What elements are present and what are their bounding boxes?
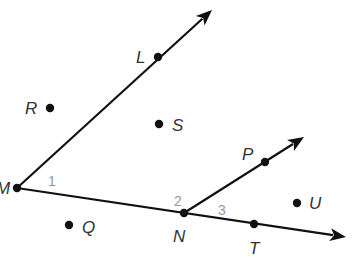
ray-line <box>17 19 202 188</box>
point-label: S <box>172 116 184 135</box>
ray-ML <box>17 10 212 188</box>
point-U: U <box>293 194 322 213</box>
point-T: T <box>249 220 261 258</box>
point-S: S <box>155 116 184 135</box>
angle-label-3: 3 <box>218 202 226 218</box>
angle-label-1: 1 <box>48 173 56 189</box>
point-label: T <box>249 239 261 258</box>
point-label: R <box>25 99 37 118</box>
point-label: Q <box>82 218 95 237</box>
point-Q: Q <box>65 218 95 237</box>
point-dot <box>13 184 21 192</box>
point-dot <box>261 158 269 166</box>
point-label: U <box>309 194 322 213</box>
point-R: R <box>25 99 54 118</box>
point-dot <box>180 209 188 217</box>
point-dot <box>155 120 163 128</box>
geometry-diagram: MLRSNPTQU 123 <box>0 0 356 275</box>
point-dot <box>293 199 301 207</box>
point-L: L <box>136 48 162 67</box>
point-label: P <box>242 145 254 164</box>
arrowhead-icon <box>287 137 304 151</box>
point-dot <box>46 104 54 112</box>
point-N: N <box>173 209 188 246</box>
point-P: P <box>242 145 269 166</box>
point-dot <box>154 53 162 61</box>
point-label: M <box>0 179 11 198</box>
point-dot <box>250 220 258 228</box>
point-dot <box>65 221 73 229</box>
point-M: M <box>0 179 21 198</box>
angle-label-2: 2 <box>174 193 182 209</box>
point-label: L <box>136 48 145 67</box>
point-label: N <box>173 227 186 246</box>
ray-line <box>184 144 293 213</box>
